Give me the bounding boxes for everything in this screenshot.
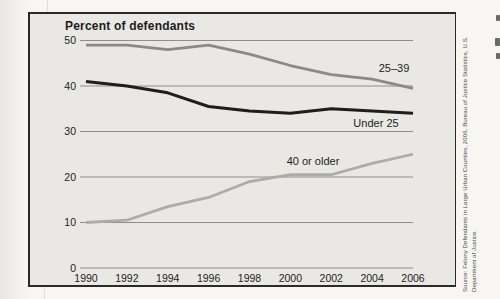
x-tick-label-1992: 1992 [115, 272, 139, 284]
series-line-25-39 [86, 45, 413, 88]
chart-title: Percent of defendants [65, 19, 195, 33]
x-tick-label-1996: 1996 [197, 272, 221, 284]
scanned-page: 0102030405019901992199419961998200020022… [0, 0, 500, 299]
series-line-40-or-older [86, 154, 413, 222]
y-tick-label-30: 30 [64, 125, 76, 137]
x-tick-label-2002: 2002 [320, 272, 344, 284]
x-tick-label-2006: 2006 [401, 272, 425, 284]
source-citation: Source: Felony Defendants in Large Urban… [461, 55, 478, 292]
cropped-print-fragment [496, 53, 500, 59]
x-tick-label-1990: 1990 [74, 272, 98, 284]
y-tick-label-40: 40 [64, 80, 76, 92]
series-label-25-39: 25–39 [379, 62, 410, 74]
cropped-print-fragment [496, 15, 500, 21]
series-label-under-25: Under 25 [353, 117, 398, 129]
x-tick-label-1998: 1998 [238, 272, 262, 284]
y-tick-label-50: 50 [64, 34, 76, 46]
line-chart: 0102030405019901992199419961998200020022… [30, 14, 455, 285]
source-citation-line-1: Source: Felony Defendants in Large Urban… [461, 55, 470, 292]
x-tick-label-2004: 2004 [360, 272, 384, 284]
x-tick-label-2000: 2000 [279, 272, 303, 284]
source-citation-line-2: Department of Justice. [470, 55, 479, 292]
chart-frame: 0102030405019901992199419961998200020022… [28, 12, 456, 287]
y-tick-label-20: 20 [64, 171, 76, 183]
cropped-print-fragment [495, 38, 500, 46]
y-tick-label-10: 10 [64, 216, 76, 228]
x-tick-label-1994: 1994 [156, 272, 180, 284]
series-label-40-or-older: 40 or older [287, 155, 340, 167]
page-edge-shading [0, 0, 27, 299]
